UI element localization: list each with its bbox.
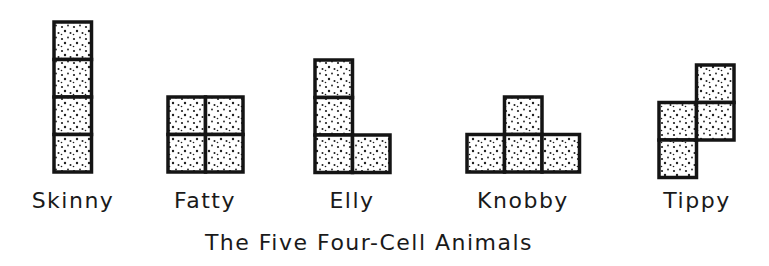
cell-elly-3 [353,135,391,173]
cell-tippy-2 [697,103,735,141]
animal-knobby [467,97,580,172]
cell-tippy-0 [697,65,735,103]
cell-fatty-3 [206,135,244,173]
cell-elly-2 [315,135,353,173]
cell-knobby-1 [467,135,505,173]
cell-fatty-1 [206,97,244,135]
diagram-title: The Five Four-Cell Animals [204,230,533,255]
cell-fatty-2 [168,135,206,173]
cell-elly-1 [315,98,353,136]
label-fatty: Fatty [174,188,236,213]
cell-skinny-0 [54,22,92,60]
polyomino-diagram: Skinny Fatty Elly Knobby Tippy The Five … [0,0,769,266]
label-tippy: Tippy [662,188,730,213]
cell-skinny-3 [54,135,92,173]
animal-fatty [168,97,243,172]
label-skinny: Skinny [32,188,115,213]
cell-tippy-3 [659,140,697,178]
animal-tippy [659,65,734,178]
animal-skinny [54,22,92,172]
cell-tippy-1 [659,103,697,141]
cell-knobby-3 [542,135,580,173]
cell-knobby-2 [505,135,543,173]
label-elly: Elly [329,188,374,213]
cell-skinny-1 [54,60,92,98]
cell-knobby-0 [505,97,543,135]
cell-elly-0 [315,60,353,98]
animal-elly [315,60,390,173]
label-knobby: Knobby [477,188,569,213]
cell-fatty-0 [168,97,206,135]
cell-skinny-2 [54,97,92,135]
